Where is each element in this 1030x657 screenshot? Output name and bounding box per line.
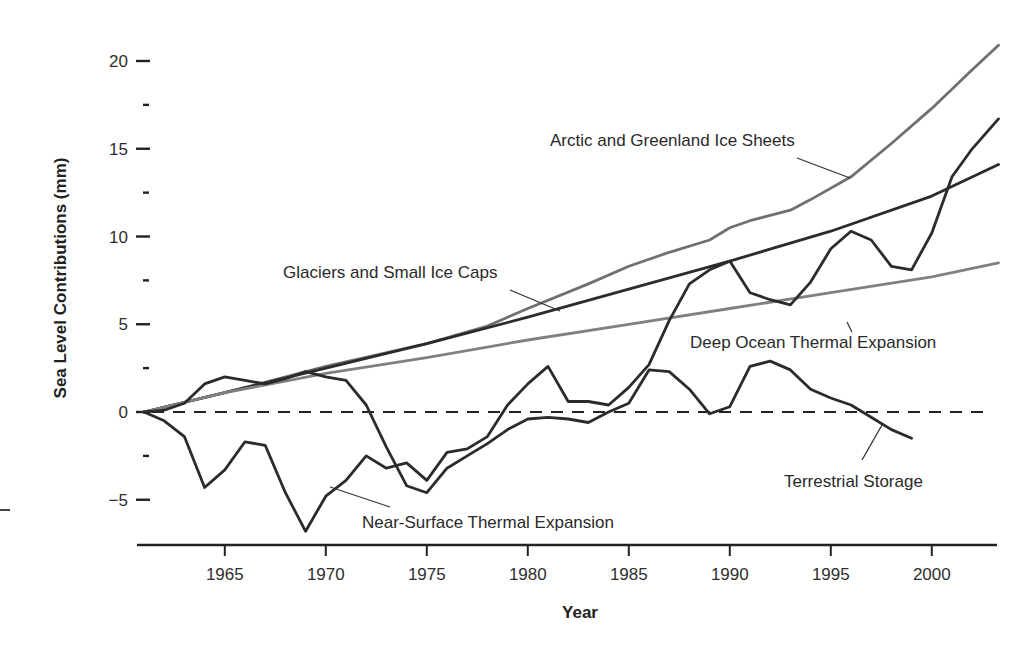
leader-line (797, 158, 850, 178)
near-surface-line (144, 119, 999, 531)
label-arctic-greenland-ice-sheets: Arctic and Greenland Ice Sheets (550, 131, 795, 150)
leader-line (847, 322, 852, 332)
glaciers-line (144, 165, 999, 413)
label-near-surface-thermal-expansion: Near-Surface Thermal Expansion (362, 513, 614, 532)
x-tick-label: 1995 (812, 565, 850, 584)
y-tick-label: −5 (109, 491, 128, 510)
x-axis-title: Year (562, 603, 598, 622)
x-tick-label: 1990 (711, 565, 749, 584)
y-tick-label: 10 (109, 228, 128, 247)
x-tick-label: 1970 (307, 565, 345, 584)
y-axis: 20151050−5 (109, 52, 150, 510)
arctic-greenland-line (144, 45, 999, 412)
label-deep-ocean-thermal-expansion: Deep Ocean Thermal Expansion (690, 333, 936, 352)
x-axis: 19651970197519801985199019952000 (137, 545, 997, 584)
x-tick-label: 2000 (913, 565, 951, 584)
leader-line (510, 290, 560, 311)
y-tick-label: 0 (119, 403, 128, 422)
x-tick-label: 1980 (509, 565, 547, 584)
label-glaciers-small-ice-caps: Glaciers and Small Ice Caps (283, 263, 497, 282)
y-tick-label: 5 (119, 315, 128, 334)
series-lines (144, 45, 999, 531)
y-tick-label: 20 (109, 52, 128, 71)
x-tick-label: 1985 (610, 565, 648, 584)
x-tick-label: 1975 (408, 565, 446, 584)
y-tick-label: 15 (109, 140, 128, 159)
label-terrestrial-storage: Terrestrial Storage (784, 472, 923, 491)
y-axis-title: Sea Level Contributions (mm) (51, 158, 70, 399)
x-tick-label: 1965 (206, 565, 244, 584)
leader-line (862, 425, 882, 460)
sea-level-chart: Sea Level Contributions (mm) Year 201510… (0, 0, 1030, 657)
leader-line (330, 487, 390, 507)
